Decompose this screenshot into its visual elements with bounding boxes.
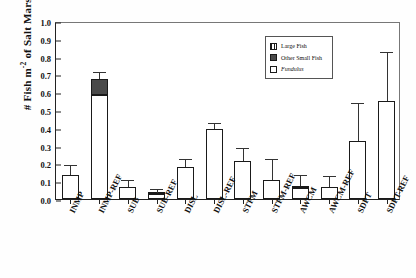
bar-slot — [200, 23, 229, 199]
error-bar — [214, 124, 215, 128]
bar-segment-other-small-fish — [91, 79, 108, 95]
chart-figure: # Fish m-2 of Salt Marsh 0.00.10.20.30.4… — [0, 0, 416, 278]
error-bar — [70, 166, 71, 175]
bar-slot — [171, 23, 200, 199]
legend-swatch-icon — [270, 66, 277, 73]
y-axis-tick-label: 0.0 — [40, 196, 56, 206]
error-bar — [272, 160, 273, 180]
legend-swatch-icon — [270, 43, 277, 50]
y-axis-title-prefix: # Fish m — [21, 68, 33, 110]
bar-slot — [372, 23, 401, 199]
bar-slot — [229, 23, 258, 199]
error-bar — [185, 160, 186, 167]
bar-slot — [56, 23, 85, 199]
y-axis-tick-label: 0.5 — [40, 107, 56, 117]
error-bar-cap — [121, 180, 134, 181]
legend-item[interactable]: Fundulus — [270, 64, 328, 75]
legend-item[interactable]: Large Fish — [270, 41, 328, 52]
y-axis-tick-label: 0.9 — [40, 36, 56, 46]
legend-swatch-icon — [270, 54, 277, 61]
bar-segment-fundulus — [91, 95, 108, 199]
y-axis-tick-label: 0.4 — [40, 125, 56, 135]
y-axis-tick-label: 0.6 — [40, 89, 56, 99]
error-bar-cap — [380, 52, 393, 53]
bar-slot — [142, 23, 171, 199]
error-bar-cap — [93, 72, 106, 73]
y-axis-title-exponent: -2 — [19, 62, 28, 69]
error-bar-cap — [351, 103, 364, 104]
error-bar — [387, 53, 388, 101]
legend-item[interactable]: Other Small Fish — [270, 52, 328, 63]
error-bar — [358, 104, 359, 141]
error-bar-cap — [323, 176, 336, 177]
y-axis-tick-label: 0.7 — [40, 71, 56, 81]
bar[interactable] — [91, 79, 108, 199]
bar-slot — [85, 23, 114, 199]
error-bar — [157, 190, 158, 193]
error-bar — [329, 177, 330, 187]
error-bar-cap — [179, 159, 192, 160]
error-bar-cap — [208, 123, 221, 124]
error-bar-cap — [236, 148, 249, 149]
error-bar — [128, 181, 129, 188]
y-axis-tick-label: 0.8 — [40, 54, 56, 64]
y-axis-title-suffix: of Salt Marsh — [21, 0, 33, 62]
error-bar-cap — [150, 189, 163, 190]
bar-segment-other-small-fish — [292, 186, 309, 188]
bar-segment-fundulus — [378, 101, 395, 199]
y-axis-tick-label: 0.1 — [40, 178, 56, 188]
legend-item-label: Large Fish — [281, 43, 307, 49]
y-axis-tick-mark — [56, 201, 61, 202]
y-axis-tick-label: 1.0 — [40, 18, 56, 28]
bar-segment-fundulus — [206, 129, 223, 199]
error-bar-cap — [265, 159, 278, 160]
chart-legend: Large FishOther Small FishFundulus — [265, 36, 333, 79]
y-axis-tick-label: 0.3 — [40, 143, 56, 153]
bar[interactable] — [206, 129, 223, 199]
error-bar-cap — [64, 165, 77, 166]
legend-item-label: Other Small Fish — [281, 55, 322, 61]
error-bar — [300, 176, 301, 186]
y-axis-tick-label: 0.2 — [40, 160, 56, 170]
error-bar — [243, 149, 244, 161]
error-bar — [99, 73, 100, 79]
y-axis-title: # Fish m-2 of Salt Marsh — [19, 0, 41, 141]
legend-item-label: Fundulus — [281, 66, 304, 72]
bar[interactable] — [378, 101, 395, 199]
